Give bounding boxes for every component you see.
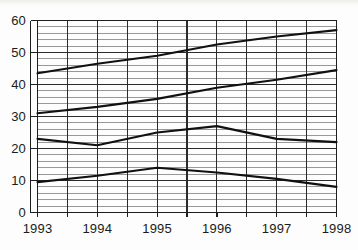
y-axis-tick-label: 60 (0, 14, 26, 27)
y-axis-tick-label: 30 (0, 110, 26, 123)
x-axis-tick-label: 1995 (135, 221, 179, 236)
plot-area (0, 0, 358, 250)
x-axis-tick-label: 1996 (195, 221, 239, 236)
x-axis-tick-label: 1998 (315, 221, 358, 236)
y-axis-tick-label: 40 (0, 78, 26, 91)
y-axis-tick-label: 50 (0, 46, 26, 59)
line-chart: 6050403020100 199319941995199619971998 (0, 0, 358, 250)
x-axis-tick-label: 1997 (255, 221, 299, 236)
x-axis-tick-label: 1993 (16, 221, 60, 236)
y-axis-tick-label: 10 (0, 174, 26, 187)
y-axis-tick-label: 20 (0, 142, 26, 155)
y-axis-tick-label: 0 (0, 206, 26, 219)
x-axis-tick-label: 1994 (75, 221, 119, 236)
